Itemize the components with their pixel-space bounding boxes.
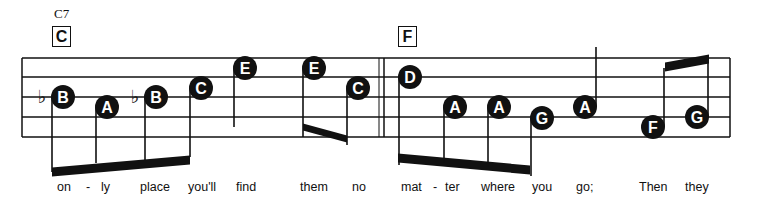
lyric-syllable: Then bbox=[639, 180, 668, 194]
note-letter: G bbox=[691, 109, 703, 126]
note-letter: D bbox=[404, 69, 416, 86]
lyric-syllable: you'll bbox=[188, 180, 216, 194]
note-letter: F bbox=[648, 119, 658, 136]
lyric-syllable: on bbox=[57, 180, 71, 194]
note-letter: A bbox=[493, 99, 505, 116]
lyric-syllable: ly bbox=[101, 180, 110, 194]
flat-icon: ♭ bbox=[131, 86, 140, 107]
lyric-syllable: them bbox=[300, 180, 328, 194]
lyric-syllable: where bbox=[481, 180, 515, 194]
note-letter: E bbox=[240, 60, 251, 77]
beam bbox=[52, 156, 190, 177]
note-letter: B bbox=[150, 89, 162, 106]
measure-chord-box: F bbox=[398, 26, 417, 47]
note-letter: G bbox=[536, 110, 548, 127]
note-letter: A bbox=[449, 99, 461, 116]
lyric-syllable: mat bbox=[401, 180, 422, 194]
beam bbox=[398, 154, 530, 175]
lyric-syllable: find bbox=[236, 180, 256, 194]
lyric-syllable: go; bbox=[576, 180, 593, 194]
note-letter: A bbox=[579, 99, 591, 116]
lyric-syllable: they bbox=[685, 180, 709, 194]
lyric-syllable: - bbox=[433, 180, 437, 194]
beam bbox=[303, 124, 347, 143]
note-letter: A bbox=[101, 99, 113, 116]
note-letter: E bbox=[309, 60, 320, 77]
chord-symbol: C7 bbox=[54, 6, 69, 22]
lyric-syllable: ter bbox=[445, 180, 460, 194]
flat-icon: ♭ bbox=[38, 86, 47, 107]
lyric-syllable: - bbox=[86, 180, 90, 194]
lyric-syllable: you bbox=[532, 180, 552, 194]
note-letter: C bbox=[195, 80, 207, 97]
lyric-syllable: no bbox=[352, 180, 366, 194]
note-letter: C bbox=[352, 80, 364, 97]
lyric-syllable: place bbox=[140, 180, 170, 194]
note-letter: B bbox=[57, 89, 69, 106]
measure-chord-box: C bbox=[52, 26, 71, 47]
beam bbox=[665, 55, 709, 72]
